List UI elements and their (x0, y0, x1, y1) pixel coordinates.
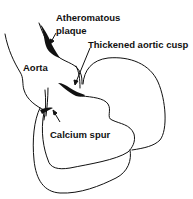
label-aorta: Aorta (23, 63, 48, 73)
spur-arrowhead (53, 110, 57, 115)
cusp-pointer (76, 48, 90, 82)
thickened-cusp-shape (58, 83, 85, 97)
label-plaque: plaque (56, 26, 87, 36)
plaque-arrowhead (50, 39, 54, 44)
septum-line-1 (44, 90, 46, 120)
aortic-valve-diagram (0, 0, 193, 199)
cusp-arrowhead (74, 80, 78, 85)
label-thickened-aortic-cusp: Thickened aortic cusp (88, 40, 188, 50)
label-calcium-spur: Calcium spur (50, 130, 110, 140)
lower-loop-outline (33, 108, 130, 193)
label-atheromatous: Atheromatous (56, 13, 120, 23)
septum-line-2 (46, 88, 48, 116)
